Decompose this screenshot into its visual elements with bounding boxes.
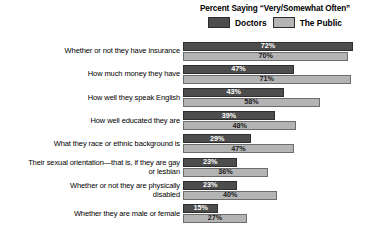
bar-value-label: 43% bbox=[227, 88, 241, 96]
bar-doctors: 23% bbox=[183, 181, 237, 190]
legend-label-public: The Public bbox=[300, 18, 342, 28]
legend-label-doctors: Doctors bbox=[235, 18, 267, 28]
category-label: Whether or not they are physicallydisabl… bbox=[0, 182, 183, 199]
row-bars: 43%58% bbox=[183, 86, 366, 109]
bar-value-label: 23% bbox=[203, 158, 217, 166]
bar-public: 47% bbox=[183, 144, 294, 153]
bar-doctors: 47% bbox=[183, 65, 294, 74]
bar-doctors: 15% bbox=[183, 204, 218, 213]
legend-swatch-doctors bbox=[208, 17, 230, 28]
chart-row: Whether or not they have insurance72%70% bbox=[0, 40, 366, 63]
bar-public: 71% bbox=[183, 75, 351, 84]
category-label: What they race or ethnic background is bbox=[0, 140, 183, 149]
legend-item-doctors: Doctors bbox=[208, 17, 267, 28]
category-label: Whether they are male or female bbox=[0, 210, 183, 219]
bar-value-label: 72% bbox=[261, 42, 275, 50]
bar-doctors: 43% bbox=[183, 88, 284, 97]
bar-doctors: 72% bbox=[183, 42, 353, 51]
chart-row: What they race or ethnic background is29… bbox=[0, 133, 366, 156]
chart-legend: Percent Saying “Very/Somewhat Often” Doc… bbox=[186, 3, 364, 28]
bar-value-label: 58% bbox=[244, 98, 258, 106]
bar-value-label: 39% bbox=[222, 112, 236, 120]
bar-value-label: 15% bbox=[194, 204, 208, 212]
chart-row: How well they speak English43%58% bbox=[0, 86, 366, 109]
row-bars: 29%47% bbox=[183, 133, 366, 156]
bar-public: 48% bbox=[183, 121, 296, 130]
bar-doctors: 39% bbox=[183, 111, 275, 120]
bar-doctors: 23% bbox=[183, 158, 237, 167]
plot-area: Whether or not they have insurance72%70%… bbox=[0, 40, 366, 234]
bar-value-label: 71% bbox=[260, 75, 274, 83]
category-label: Their sexual orientation—that is, if the… bbox=[0, 159, 183, 176]
chart-row: How much money they have47%71% bbox=[0, 63, 366, 86]
bar-value-label: 47% bbox=[231, 65, 245, 73]
legend-swatch-public bbox=[273, 17, 295, 28]
bar-value-label: 23% bbox=[203, 181, 217, 189]
bar-value-label: 70% bbox=[258, 52, 272, 60]
bar-value-label: 27% bbox=[208, 214, 222, 222]
category-label: How well they speak English bbox=[0, 94, 183, 103]
chart-row: Whether they are male or female15%27% bbox=[0, 202, 366, 225]
category-label: How much money they have bbox=[0, 70, 183, 79]
row-bars: 23%36% bbox=[183, 156, 366, 179]
chart-row: How well educated they are39%48% bbox=[0, 110, 366, 133]
bar-doctors: 29% bbox=[183, 134, 251, 143]
legend-title: Percent Saying “Very/Somewhat Often” bbox=[186, 3, 364, 14]
legend-items: Doctors The Public bbox=[186, 17, 364, 28]
row-bars: 23%40% bbox=[183, 179, 366, 202]
bar-value-label: 29% bbox=[210, 135, 224, 143]
bar-value-label: 36% bbox=[218, 168, 232, 176]
bar-public: 40% bbox=[183, 191, 277, 200]
bar-value-label: 40% bbox=[223, 191, 237, 199]
bar-chart: Percent Saying “Very/Somewhat Often” Doc… bbox=[0, 0, 366, 234]
legend-item-public: The Public bbox=[273, 17, 342, 28]
category-label: Whether or not they have insurance bbox=[0, 47, 183, 56]
chart-row: Whether or not they are physicallydisabl… bbox=[0, 179, 366, 202]
bar-value-label: 48% bbox=[232, 122, 246, 130]
bar-value-label: 47% bbox=[231, 145, 245, 153]
category-label: How well educated they are bbox=[0, 117, 183, 126]
row-bars: 47%71% bbox=[183, 63, 366, 86]
bar-public: 58% bbox=[183, 98, 320, 107]
bar-public: 36% bbox=[183, 168, 268, 177]
row-bars: 15%27% bbox=[183, 202, 366, 225]
row-bars: 72%70% bbox=[183, 40, 366, 63]
chart-row: Their sexual orientation—that is, if the… bbox=[0, 156, 366, 179]
bar-public: 27% bbox=[183, 214, 247, 223]
bar-public: 70% bbox=[183, 52, 348, 61]
row-bars: 39%48% bbox=[183, 110, 366, 133]
